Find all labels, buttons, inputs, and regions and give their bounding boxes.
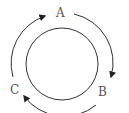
- inner-circle: [26, 28, 98, 100]
- arrow-b-to-c: [24, 96, 96, 113]
- node-label-a: A: [56, 7, 65, 19]
- node-label-c: C: [10, 84, 19, 96]
- arrow-c-to-a: [11, 16, 45, 77]
- node-label-b: B: [98, 86, 107, 98]
- arrow-a-to-b: [74, 14, 113, 77]
- cycle-diagram: A B C: [0, 0, 129, 113]
